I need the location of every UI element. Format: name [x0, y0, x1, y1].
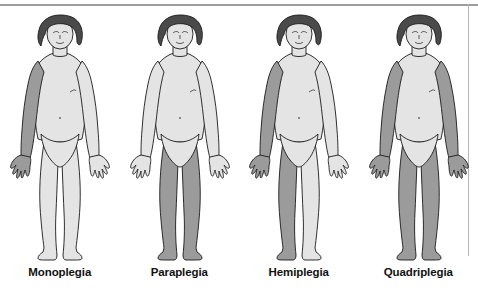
panel-label-quadriplegia: Quadriplegia: [384, 267, 453, 279]
panel-hemiplegia: Hemiplegia: [239, 8, 359, 299]
panel-quadriplegia: Quadriplegia: [359, 8, 478, 299]
navel-mark: [179, 117, 181, 119]
region-right-hand: [369, 155, 389, 178]
panel-label-paraplegia: Paraplegia: [151, 267, 208, 279]
region-left-hand: [448, 155, 468, 178]
body-figure-quadriplegia: [359, 8, 478, 266]
region-right-hand: [11, 155, 31, 178]
panel-label-hemiplegia: Hemiplegia: [269, 267, 329, 279]
region-left-hand: [90, 155, 110, 178]
body-figure-monoplegia: [0, 8, 119, 266]
navel-mark: [418, 117, 420, 119]
panel-label-monoplegia: Monoplegia: [28, 267, 91, 279]
region-left-hand: [329, 155, 349, 178]
region-left-hand: [209, 155, 229, 178]
navel-mark: [59, 117, 61, 119]
panel-monoplegia: Monoplegia: [0, 8, 120, 299]
panel-row: Monoplegia: [0, 8, 478, 299]
body-figure-hemiplegia: [239, 8, 358, 266]
region-right-hand: [250, 155, 270, 178]
panel-paraplegia: Paraplegia: [120, 8, 240, 299]
body-figure-paraplegia: [120, 8, 239, 266]
frame-rule-top: [0, 4, 478, 6]
region-right-hand: [130, 155, 150, 178]
paralysis-types-diagram: Monoplegia: [0, 0, 478, 299]
navel-mark: [298, 117, 300, 119]
